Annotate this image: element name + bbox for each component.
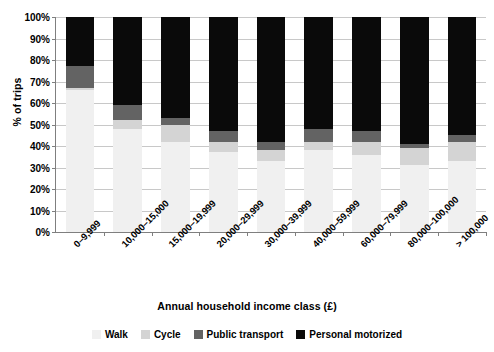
legend-label: Personal motorized: [309, 329, 402, 340]
legend-item[interactable]: Cycle: [141, 329, 181, 340]
y-axis-tick-label: 20%: [4, 184, 50, 195]
y-axis-tick: [52, 168, 56, 169]
y-axis-tick: [52, 82, 56, 83]
x-axis-tick: [438, 232, 439, 236]
chart-legend: WalkCyclePublic transportPersonal motori…: [0, 329, 494, 340]
y-axis-tick: [52, 103, 56, 104]
y-axis-tick-label: 70%: [4, 76, 50, 87]
y-axis-tick: [52, 60, 56, 61]
bar-segment-personal-motorized[interactable]: [113, 17, 142, 105]
bar-segment-walk[interactable]: [352, 155, 381, 232]
y-axis-tick-label: 10%: [4, 205, 50, 216]
bar-segment-personal-motorized[interactable]: [400, 17, 429, 144]
x-axis-tick: [104, 232, 105, 236]
bar-segment-personal-motorized[interactable]: [352, 17, 381, 131]
y-axis-tick-label: 80%: [4, 55, 50, 66]
bar-segment-cycle[interactable]: [113, 120, 142, 129]
y-axis-tick: [52, 232, 56, 233]
x-axis-tick: [295, 232, 296, 236]
bar-segment-cycle[interactable]: [209, 142, 238, 153]
bar-segment-cycle[interactable]: [304, 142, 333, 151]
y-axis-tick-label: 50%: [4, 119, 50, 130]
bar-segment-public-transport[interactable]: [257, 142, 286, 151]
legend-item[interactable]: Walk: [92, 329, 128, 340]
bar-segment-cycle[interactable]: [400, 148, 429, 165]
bar-segment-public-transport[interactable]: [400, 144, 429, 148]
y-axis-tick: [52, 125, 56, 126]
bar-segment-personal-motorized[interactable]: [161, 17, 190, 118]
legend-label: Cycle: [154, 329, 181, 340]
y-axis-tick-label: 100%: [4, 12, 50, 23]
y-axis-tick: [52, 39, 56, 40]
bar-segment-walk[interactable]: [113, 129, 142, 232]
bar-segment-personal-motorized[interactable]: [448, 17, 477, 135]
bar-segment-cycle[interactable]: [257, 150, 286, 161]
bar-segment-cycle[interactable]: [161, 125, 190, 142]
legend-swatch-icon: [141, 330, 150, 339]
x-axis-tick: [247, 232, 248, 236]
x-axis-tick: [199, 232, 200, 236]
y-axis-tick-label: 60%: [4, 98, 50, 109]
legend-label: Walk: [105, 329, 128, 340]
y-axis-tick: [52, 211, 56, 212]
y-axis-tick-label: 0%: [4, 227, 50, 238]
bar-segment-public-transport[interactable]: [209, 131, 238, 142]
bar-segment-public-transport[interactable]: [161, 118, 190, 124]
y-axis-tick: [52, 17, 56, 18]
bar-segment-cycle[interactable]: [66, 88, 95, 90]
x-axis-title: Annual household income class (£): [0, 300, 494, 312]
x-axis-tick: [390, 232, 391, 236]
bar-segment-walk[interactable]: [66, 90, 95, 232]
bar-segment-walk[interactable]: [161, 142, 190, 232]
bar-segment-walk[interactable]: [209, 152, 238, 232]
bar-segment-public-transport[interactable]: [448, 135, 477, 141]
x-axis-tick: [486, 232, 487, 236]
y-axis-tick-label: 90%: [4, 33, 50, 44]
legend-swatch-icon: [92, 330, 101, 339]
y-axis-tick: [52, 146, 56, 147]
y-axis-tick: [52, 189, 56, 190]
bar-segment-personal-motorized[interactable]: [66, 17, 95, 66]
bar-segment-personal-motorized[interactable]: [209, 17, 238, 131]
y-axis-tick-label: 40%: [4, 141, 50, 152]
bar-segment-personal-motorized[interactable]: [304, 17, 333, 129]
x-axis-tick: [152, 232, 153, 236]
plot-area: 0%10%20%30%40%50%60%70%80%90%100%: [55, 17, 486, 233]
y-axis-tick-label: 30%: [4, 162, 50, 173]
bar-segment-public-transport[interactable]: [352, 131, 381, 142]
bar-segment-cycle[interactable]: [448, 142, 477, 161]
bar-segment-walk[interactable]: [304, 150, 333, 232]
bar-segment-public-transport[interactable]: [113, 105, 142, 120]
x-axis-tick: [343, 232, 344, 236]
bar-column[interactable]: [209, 17, 238, 232]
bar-segment-public-transport[interactable]: [66, 66, 95, 88]
legend-item[interactable]: Personal motorized: [296, 329, 402, 340]
legend-label: Public transport: [207, 329, 284, 340]
bar-segment-personal-motorized[interactable]: [257, 17, 286, 142]
bar-column[interactable]: [66, 17, 95, 232]
legend-item[interactable]: Public transport: [194, 329, 284, 340]
bar-column[interactable]: [113, 17, 142, 232]
bar-segment-public-transport[interactable]: [304, 129, 333, 142]
legend-swatch-icon: [296, 330, 305, 339]
stacked-bar-chart: % of trips 0%10%20%30%40%50%60%70%80%90%…: [0, 0, 494, 352]
legend-swatch-icon: [194, 330, 203, 339]
bar-segment-cycle[interactable]: [352, 142, 381, 155]
